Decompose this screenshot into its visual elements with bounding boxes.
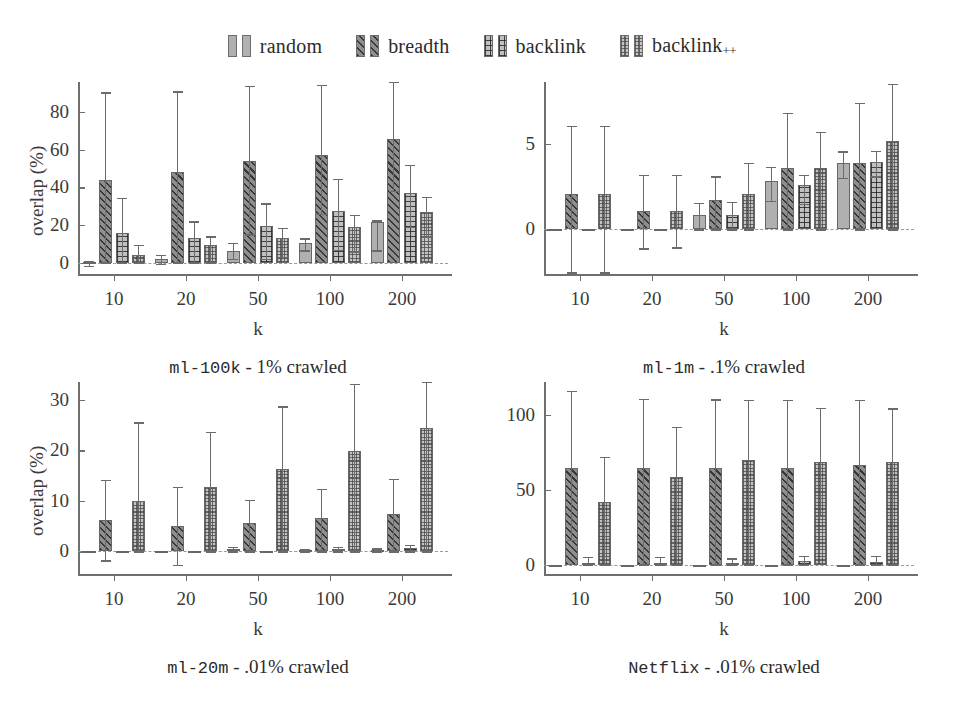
error-bar-cap — [672, 247, 682, 248]
error-bar-backlinkpp-k100 — [820, 132, 821, 230]
error-bar-cap — [744, 163, 754, 164]
error-bar-cap — [278, 406, 288, 407]
error-bar-cap — [871, 565, 881, 566]
error-bar-cap — [405, 551, 415, 552]
error-bar-cap — [228, 259, 238, 260]
error-bar-cap — [189, 263, 199, 264]
error-bar-cap — [350, 215, 360, 216]
x-tick-label: 100 — [316, 274, 345, 310]
bar-random-k10 — [549, 565, 562, 567]
error-bar-cap — [189, 221, 199, 222]
error-bar-cap — [783, 113, 793, 114]
error-bar-cap — [300, 250, 310, 251]
panel-caption-ml20m: ml-20m - .01% crawled — [167, 656, 349, 678]
x-tick-label: 100 — [316, 574, 345, 610]
error-bar-breadth-k10 — [105, 480, 106, 560]
x-axis-label-netflix: k — [719, 618, 729, 640]
error-bar-cap — [156, 255, 166, 256]
x-tick-label: 50 — [249, 274, 268, 310]
error-bar-cap — [372, 220, 382, 221]
error-bar-breadth-k50 — [249, 86, 250, 235]
error-bar-cap — [816, 229, 826, 230]
error-bar-cap — [711, 565, 721, 566]
error-bar-cap — [816, 132, 826, 133]
y-tick-label: 0 — [526, 554, 545, 576]
error-bar-cap — [333, 179, 343, 180]
error-bar-cap — [727, 202, 737, 203]
error-bar-backlink-k200 — [876, 556, 877, 565]
y-tick-label: 40 — [50, 176, 78, 198]
error-bar-backlinkpp-k50 — [748, 163, 749, 230]
legend-swatch-box — [498, 35, 507, 57]
bar-random-k10 — [83, 551, 96, 553]
error-bar-cap — [245, 500, 255, 501]
error-bar-cap — [228, 243, 238, 244]
error-bar-breadth-k100 — [787, 113, 788, 230]
error-bar-cap — [405, 545, 415, 546]
error-bar-backlinkpp-k10 — [604, 457, 605, 565]
y-tick-label: 0 — [526, 218, 545, 240]
x-tick-label: 200 — [388, 274, 417, 310]
error-bar-cap — [855, 565, 865, 566]
x-tick-label: 200 — [854, 574, 883, 610]
y-tick-mark — [78, 112, 85, 113]
error-bar-cap — [799, 565, 809, 566]
legend-label-random: random — [260, 35, 322, 58]
x-tick-label: 50 — [715, 274, 734, 310]
error-bar-backlinkpp-k50 — [282, 228, 283, 257]
error-bar-cap — [422, 551, 432, 552]
error-bar-cap — [278, 257, 288, 258]
error-bar-breadth-k20 — [643, 175, 644, 249]
error-bar-breadth-k50 — [249, 500, 250, 552]
error-bar-cap — [694, 203, 704, 204]
error-bar-cap — [766, 167, 776, 168]
error-bar-random-k50 — [233, 243, 234, 259]
error-bar-breadth-k100 — [787, 400, 788, 565]
error-bar-cap — [317, 85, 327, 86]
legend-swatch-box — [634, 35, 643, 57]
y-tick-label: 10 — [50, 490, 78, 512]
error-bar-backlink-k200 — [876, 151, 877, 177]
error-bar-backlink-k200 — [410, 165, 411, 227]
bar-backlink-k10 — [116, 551, 129, 553]
error-bar-cap — [101, 480, 111, 481]
error-bar-cap — [888, 565, 898, 566]
error-bar-cap — [372, 551, 382, 552]
error-bar-backlinkpp-k20 — [210, 236, 211, 262]
error-bar-breadth-k200 — [859, 103, 860, 230]
x-tick-label: 10 — [105, 574, 124, 610]
error-bar-breadth-k200 — [393, 82, 394, 191]
error-bar-backlinkpp-k10 — [138, 245, 139, 263]
error-bar-cap — [711, 229, 721, 230]
error-bar-backlinkpp-k10 — [138, 422, 139, 551]
error-bar-backlinkpp-k100 — [354, 384, 355, 552]
error-bar-cap — [799, 556, 809, 557]
y-axis-line — [78, 382, 80, 574]
error-bar-cap — [350, 551, 360, 552]
figure-container: randombreadthbacklinkbacklink++ 02040608… — [0, 0, 964, 705]
error-bar-cap — [156, 264, 166, 265]
y-tick-label: 0 — [60, 252, 79, 274]
bar-backlink-k20 — [654, 229, 667, 231]
legend-label-backlinkpp: backlink++ — [652, 34, 736, 59]
y-axis-line — [78, 82, 80, 274]
y-axis-line — [544, 382, 546, 574]
error-bar-cap — [655, 565, 665, 566]
panel-caption-netflix: Netflix - .01% crawled — [628, 656, 820, 678]
x-tick-label: 10 — [105, 274, 124, 310]
x-tick-label: 200 — [388, 574, 417, 610]
plot-area-ml20m: 0102030102050100200 — [78, 382, 438, 574]
error-bar-backlink-k100 — [804, 175, 805, 204]
panel-ml1m: 05102050100200kml-1m - .1% crawled — [482, 68, 964, 368]
error-bar-backlinkpp-k50 — [282, 406, 283, 551]
error-bar-cap — [173, 91, 183, 92]
y-tick-label: 60 — [50, 139, 78, 161]
error-bar-random-k100 — [305, 238, 306, 250]
error-bar-cap — [206, 263, 216, 264]
legend-swatch-box — [356, 35, 365, 57]
error-bar-breadth-k50 — [715, 399, 716, 565]
panel-caption-detail: - .01% crawled — [228, 656, 348, 677]
error-bar-backlinkpp-k50 — [748, 400, 749, 565]
error-bar-cap — [206, 236, 216, 237]
error-bar-cap — [228, 551, 238, 552]
